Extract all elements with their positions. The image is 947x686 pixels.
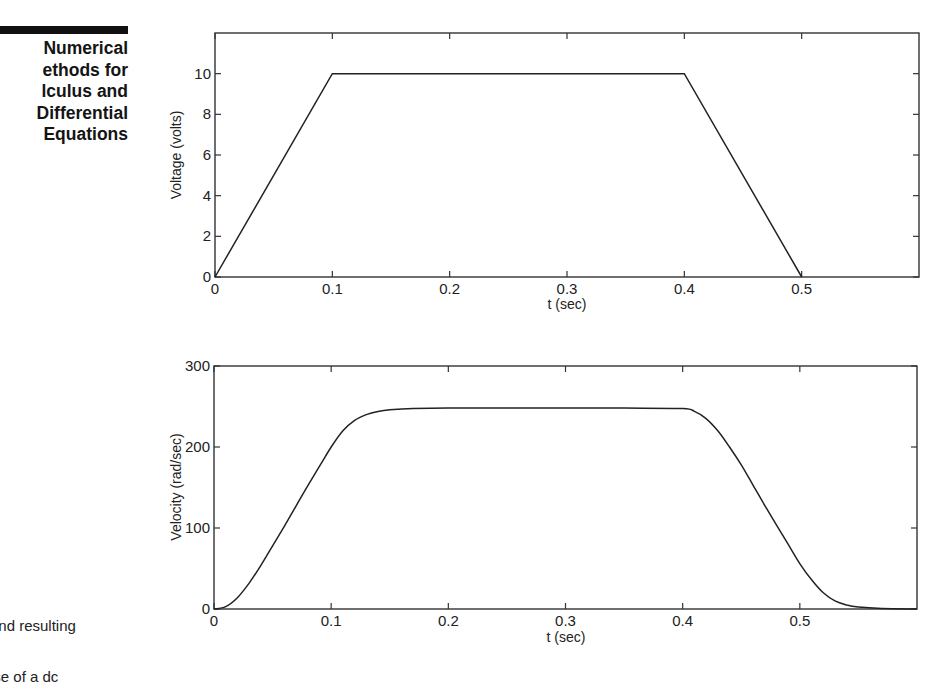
x-tick-label: 0.1 [322,280,343,297]
x-tick-label: 0.2 [439,280,460,297]
y-tick-label: 200 [185,438,210,455]
plot-frame [215,33,919,277]
velocity-chart: 00.10.20.30.40.50100200300 t (sec) Veloc… [168,357,917,645]
tick-labels: 00.10.20.30.40.50246810 [194,65,812,297]
x-tick-label: 0.3 [555,612,576,629]
axis-ticks [215,33,919,277]
x-axis-label: t (sec) [547,629,586,645]
y-tick-label: 10 [194,65,211,82]
x-tick-label: 0.1 [321,612,342,629]
y-tick-label: 2 [203,227,211,244]
x-tick-label: 0.5 [791,280,812,297]
tick-labels: 00.10.20.30.40.50100200300 [185,357,810,629]
x-tick-label: 0.2 [438,612,459,629]
y-tick-label: 300 [185,357,210,374]
x-axis-label: t (sec) [548,296,587,312]
plot-frame [214,366,917,609]
y-tick-label: 6 [203,146,211,163]
x-tick-label: 0.4 [674,280,695,297]
y-tick-label: 100 [185,519,210,536]
voltage-chart: 00.10.20.30.40.50246810 t (sec) Voltage … [168,33,919,312]
x-tick-label: 0 [211,280,219,297]
axis-ticks [214,366,917,609]
y-tick-label: 0 [202,600,210,617]
y-tick-label: 8 [203,105,211,122]
x-tick-label: 0.5 [789,612,810,629]
x-tick-label: 0.3 [557,280,578,297]
y-axis-label: Velocity (rad/sec) [168,433,184,540]
velocity-line [214,408,917,609]
x-tick-label: 0.4 [672,612,693,629]
voltage-line [215,74,802,277]
y-tick-label: 4 [203,187,211,204]
y-axis-label: Voltage (volts) [168,111,184,200]
x-tick-label: 0 [210,612,218,629]
caption-line: ise of a dc [0,668,76,685]
y-tick-label: 0 [203,268,211,285]
